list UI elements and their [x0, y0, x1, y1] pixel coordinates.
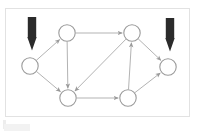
node-left-source[interactable] — [22, 58, 38, 74]
edge-bottom-right-to-right — [135, 73, 160, 93]
edge-bottom-right-to-top-right — [129, 43, 132, 90]
node-top-right[interactable] — [124, 25, 140, 41]
figure-root — [0, 0, 206, 136]
node-layer — [22, 25, 176, 106]
caption-smudge — [4, 124, 30, 131]
edge-left-to-bottom-left — [37, 72, 61, 92]
marker-layer — [27, 17, 174, 52]
edge-layer — [36, 33, 160, 98]
edge-top-right-to-right — [138, 39, 161, 60]
sink-marker-arrow — [165, 18, 174, 52]
edge-top-center-to-bottom-left — [67, 42, 68, 89]
node-top-center[interactable] — [59, 25, 75, 41]
graph-canvas — [0, 0, 206, 136]
node-bottom-left[interactable] — [60, 90, 76, 106]
edge-top-right-to-bottom-left — [75, 39, 126, 91]
edge-left-to-top-center — [36, 40, 59, 61]
source-marker-arrow — [27, 17, 36, 51]
node-right-sink[interactable] — [160, 59, 176, 75]
node-bottom-right[interactable] — [120, 90, 136, 106]
